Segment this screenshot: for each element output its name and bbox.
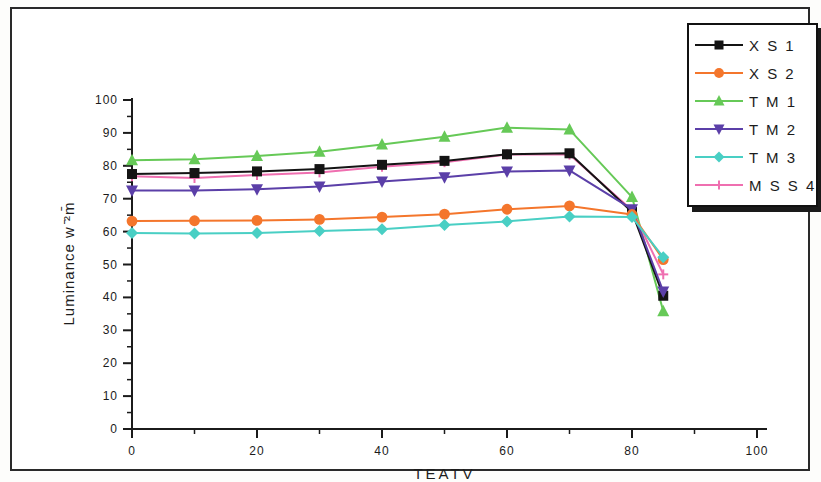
marker-diamond bbox=[501, 215, 513, 227]
x-tick-label: 80 bbox=[624, 444, 639, 458]
legend-swatch bbox=[695, 177, 743, 193]
marker-square bbox=[252, 166, 262, 176]
figure-canvas: 0102030405060708090100020406080100 Lumin… bbox=[0, 0, 821, 482]
y-tick-label: 100 bbox=[95, 93, 118, 107]
x-tick-label: 40 bbox=[374, 444, 389, 458]
y-axis-label: Luminance w ̄²m̄ bbox=[60, 163, 77, 363]
series-line bbox=[132, 153, 663, 295]
marker-triangle-up bbox=[714, 95, 725, 106]
marker-square bbox=[377, 160, 387, 170]
y-tick-label: 20 bbox=[103, 356, 118, 370]
chart-legend: X S 1X S 2T M 1T M 2T M 3M S S 4 bbox=[687, 23, 818, 207]
marker-circle bbox=[127, 216, 138, 227]
legend-swatch bbox=[695, 65, 743, 81]
marker-circle bbox=[252, 215, 263, 226]
marker-square bbox=[127, 169, 137, 179]
y-tick-label: 10 bbox=[103, 389, 118, 403]
marker-triangle-up bbox=[657, 305, 669, 317]
marker-circle bbox=[714, 68, 724, 78]
marker-plus bbox=[658, 269, 668, 279]
legend-item-label: T M 3 bbox=[749, 149, 797, 166]
legend-marker-icon bbox=[711, 93, 727, 109]
marker-diamond bbox=[376, 223, 388, 235]
marker-circle bbox=[189, 215, 200, 226]
legend-marker-icon bbox=[711, 149, 727, 165]
series-line bbox=[132, 170, 663, 291]
marker-square bbox=[190, 168, 200, 178]
marker-diamond bbox=[439, 219, 451, 231]
marker-triangle-down bbox=[714, 125, 725, 136]
marker-square bbox=[502, 149, 512, 159]
legend-item[interactable]: M S S 4 bbox=[695, 171, 812, 199]
legend-swatch bbox=[695, 93, 743, 109]
y-tick-label: 50 bbox=[103, 258, 118, 272]
legend-item-label: T M 2 bbox=[749, 121, 797, 138]
series-line bbox=[132, 217, 663, 258]
legend-item-label: X S 2 bbox=[749, 65, 796, 82]
x-tick-label: 100 bbox=[745, 444, 768, 458]
x-tick-label: 20 bbox=[249, 444, 264, 458]
y-tick-label: 40 bbox=[103, 290, 118, 304]
y-tick-label: 60 bbox=[103, 225, 118, 239]
legend-marker-icon bbox=[711, 121, 727, 137]
series-tm1 bbox=[126, 121, 669, 316]
chart-frame: 0102030405060708090100020406080100 Lumin… bbox=[10, 7, 810, 471]
marker-circle bbox=[314, 214, 325, 225]
marker-diamond bbox=[314, 225, 326, 237]
legend-swatch bbox=[695, 149, 743, 165]
marker-circle bbox=[564, 201, 575, 212]
legend-swatch bbox=[695, 37, 743, 53]
legend-item-label: X S 1 bbox=[749, 37, 796, 54]
marker-diamond bbox=[189, 228, 201, 240]
marker-diamond bbox=[126, 227, 138, 239]
y-tick-label: 30 bbox=[103, 323, 118, 337]
legend-item[interactable]: X S 2 bbox=[695, 59, 812, 87]
y-tick-label: 90 bbox=[103, 126, 118, 140]
legend-marker-icon bbox=[711, 37, 727, 53]
series-tm3 bbox=[126, 210, 669, 263]
y-tick-label: 70 bbox=[103, 192, 118, 206]
y-tick-label: 0 bbox=[110, 422, 118, 436]
x-axis-label: TEATV bbox=[385, 465, 505, 482]
marker-square bbox=[315, 164, 325, 174]
series-tm2 bbox=[126, 165, 669, 298]
marker-diamond bbox=[251, 227, 263, 239]
x-tick-label: 0 bbox=[128, 444, 136, 458]
marker-circle bbox=[377, 212, 388, 223]
legend-item[interactable]: T M 3 bbox=[695, 143, 812, 171]
axes-group: 0102030405060708090100020406080100 bbox=[95, 93, 769, 458]
series-line bbox=[132, 128, 663, 312]
legend-swatch bbox=[695, 121, 743, 137]
legend-item[interactable]: T M 1 bbox=[695, 87, 812, 115]
legend-item-label: M S S 4 bbox=[749, 177, 816, 194]
marker-square bbox=[440, 156, 450, 166]
marker-square bbox=[715, 41, 724, 50]
x-tick-label: 60 bbox=[499, 444, 514, 458]
legend-marker-icon bbox=[711, 177, 727, 193]
legend-item-label: T M 1 bbox=[749, 93, 797, 110]
marker-plus bbox=[715, 181, 724, 190]
legend-item[interactable]: T M 2 bbox=[695, 115, 812, 143]
y-tick-label: 80 bbox=[103, 159, 118, 173]
marker-circle bbox=[502, 204, 513, 215]
marker-diamond bbox=[714, 152, 725, 163]
marker-circle bbox=[439, 209, 450, 220]
legend-item[interactable]: X S 1 bbox=[695, 31, 812, 59]
marker-square bbox=[565, 148, 575, 158]
legend-marker-icon bbox=[711, 65, 727, 81]
marker-diamond bbox=[564, 210, 576, 222]
